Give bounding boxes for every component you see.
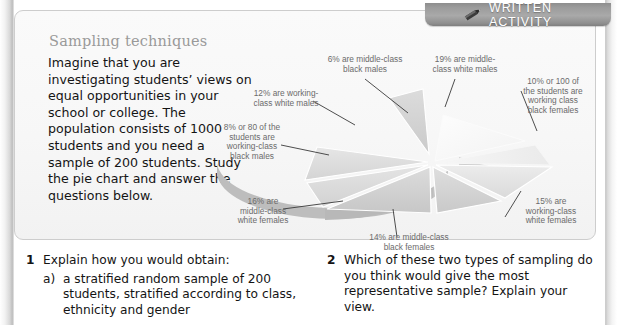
- pie-label-middle-class-white-males: 19% are middle- class white males: [417, 55, 513, 74]
- activity-card: Sampling techniques Imagine that you are…: [14, 10, 596, 240]
- textbook-page: Sampling techniques Imagine that you are…: [0, 0, 617, 325]
- pie-chart: 6% are middle-class black males 19% are …: [205, 41, 611, 253]
- pie-label-working-class-white-females: 15% are working-class white females: [503, 197, 599, 226]
- question-1-sub-a-label: a): [43, 272, 55, 288]
- pie-label-working-class-black-males: 8% or 80 of the students are working-cla…: [207, 123, 297, 161]
- question-1-stem: Explain how you would obtain:: [43, 253, 304, 269]
- page-title: Sampling techniques: [49, 33, 207, 49]
- page-left-edge: [0, 0, 14, 325]
- written-activity-banner: WRITTEN ACTIVITY: [425, 3, 611, 26]
- question-2: 2 Which of these two types of sampling d…: [327, 253, 599, 315]
- pencil-icon: [461, 6, 483, 24]
- pie-slice-middle-class-black-males: [389, 89, 429, 154]
- question-1-sub-a-text: a stratified random sample of 200 studen…: [63, 272, 304, 319]
- banner-label: WRITTEN ACTIVITY: [489, 1, 611, 29]
- pie-label-middle-class-black-females: 14% are middle-class black females: [339, 233, 479, 252]
- question-2-stem: Which of these two types of sampling do …: [344, 253, 599, 315]
- pie-label-working-class-white-males: 12% are working- class white males: [233, 89, 339, 108]
- question-1-sub-a: a) a stratified random sample of 200 stu…: [43, 272, 304, 319]
- question-1-number: 1: [26, 253, 34, 269]
- question-2-number: 2: [327, 253, 335, 269]
- pie-label-working-class-black-females: 10% or 100 of the students are working c…: [505, 77, 601, 115]
- question-1: 1 Explain how you would obtain: a) a str…: [26, 253, 304, 318]
- pie-label-middle-class-white-females: 16% are middle-class white females: [215, 197, 311, 226]
- pie-label-middle-class-black-males: 6% are middle-class black males: [305, 55, 425, 74]
